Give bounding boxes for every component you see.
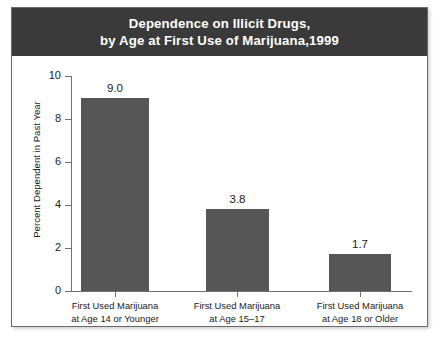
y-axis-tick: 10 [65, 76, 71, 77]
x-axis-label-line: First Used Marijuana [300, 300, 420, 313]
chart-title-line-2: by Age at First Use of Marijuana,1999 [100, 32, 339, 49]
x-axis-tick [237, 292, 238, 297]
y-axis-tick: 2 [65, 248, 71, 249]
chart-figure: Dependence on Illicit Drugs, by Age at F… [0, 0, 440, 341]
y-axis-line [71, 76, 72, 292]
x-axis-label-line: First Used Marijuana [177, 300, 297, 313]
x-axis-label-line: First Used Marijuana [55, 300, 175, 313]
y-axis-tick: 0 [65, 291, 71, 292]
y-axis-tick: 4 [65, 205, 71, 206]
x-axis-label-age-15-17: First Used Marijuana at Age 15–17 [177, 300, 297, 325]
bar-age-18-or-older[interactable]: 1.7 [329, 254, 391, 291]
x-axis-label-line: at Age 14 or Younger [55, 313, 175, 326]
x-axis-label-line: at Age 18 or Older [300, 313, 420, 326]
x-axis-label-age-18-or-older: First Used Marijuana at Age 18 or Older [300, 300, 420, 325]
x-axis-label-age-14-or-younger: First Used Marijuana at Age 14 or Younge… [55, 300, 175, 325]
bar-value-label: 3.8 [206, 193, 269, 205]
y-axis-tick-label: 10 [49, 69, 61, 81]
chart-panel: Dependence on Illicit Drugs, by Age at F… [11, 7, 428, 327]
plot-area: Percent Dependent in Past Year 10 8 6 4 … [12, 56, 427, 328]
y-axis-tick: 6 [65, 162, 71, 163]
chart-title-banner: Dependence on Illicit Drugs, by Age at F… [12, 8, 427, 56]
y-axis-tick-label: 6 [55, 155, 61, 167]
bar-age-15-17[interactable]: 3.8 [206, 209, 269, 291]
y-axis-tick-label: 8 [55, 112, 61, 124]
x-axis-label-line: at Age 15–17 [177, 313, 297, 326]
x-axis-tick [360, 292, 361, 297]
y-axis-tick-label: 0 [55, 284, 61, 296]
bar-age-14-or-younger[interactable]: 9.0 [81, 98, 149, 292]
x-axis-tick [115, 292, 116, 297]
y-axis-title: Percent Dependent in Past Year [31, 80, 42, 260]
chart-title-line-1: Dependence on Illicit Drugs, [129, 15, 311, 32]
y-axis-tick-label: 4 [55, 198, 61, 210]
bar-value-label: 9.0 [81, 82, 149, 94]
y-axis-tick-label: 2 [55, 241, 61, 253]
y-axis-tick: 8 [65, 119, 71, 120]
bar-value-label: 1.7 [329, 238, 391, 250]
